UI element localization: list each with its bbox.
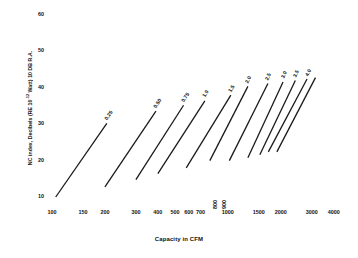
plot-area: 0.250.500.751.01.52.02.53.03.54.0 bbox=[0, 0, 358, 258]
series-line bbox=[56, 123, 107, 197]
series-line bbox=[277, 78, 316, 152]
chart-figure: NC index, Decibels (RE 10-12 Watt) 10 DB… bbox=[0, 0, 358, 258]
series-line bbox=[260, 81, 296, 155]
x-axis-title: Capacity in CFM bbox=[0, 236, 358, 242]
series-line bbox=[268, 79, 307, 152]
series-line bbox=[158, 101, 205, 174]
series-line bbox=[136, 105, 184, 179]
series-lines-svg bbox=[0, 0, 358, 258]
series-line bbox=[105, 111, 156, 187]
series-line bbox=[248, 82, 283, 158]
